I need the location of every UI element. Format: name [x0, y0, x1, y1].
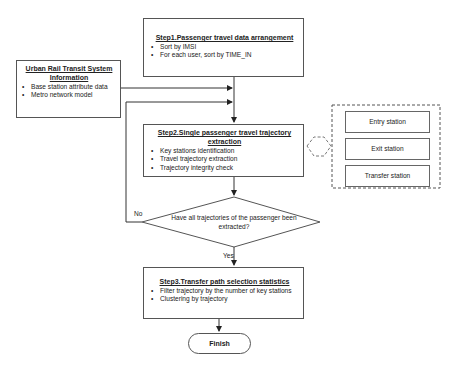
list-item: Trajectory integrity check [160, 164, 299, 172]
exit-station-box: Exit station [345, 138, 430, 160]
step1-box: Step1.Passenger travel data arrangement … [143, 18, 304, 77]
info-title: Urban Rail Transit System Information [21, 64, 117, 82]
list-item: For each user, sort by TIME_IN [160, 51, 299, 59]
step3-title: Step3.Transfer path selection statistics [150, 277, 299, 286]
step1-list: Sort by IMSI For each user, sort by TIME… [150, 43, 299, 60]
list-item: Sort by IMSI [160, 43, 299, 51]
entry-station-box: Entry station [345, 111, 430, 133]
transfer-station-label: Transfer station [365, 172, 411, 179]
finish-terminal: Finish [188, 333, 251, 354]
list-item: Travel trajectory extraction [160, 155, 299, 163]
step1-title: Step1.Passenger travel data arrangement [150, 33, 299, 42]
double-arrow-icon [307, 137, 331, 156]
step2-list: Key stations identification Travel traje… [150, 147, 299, 172]
list-item: Metro network model [31, 91, 117, 99]
transfer-station-box: Transfer station [345, 165, 430, 187]
info-box: Urban Rail Transit System Information Ba… [16, 60, 121, 118]
list-item: Base station attribute data [31, 83, 117, 91]
entry-station-label: Entry station [369, 118, 406, 125]
list-item: Clustering by trajectory [160, 295, 299, 303]
step3-list: Filter trajectory by the number of key s… [150, 287, 299, 304]
step2-title: Step2.Single passenger travel trajectory… [150, 128, 299, 146]
info-list: Base station attribute data Metro networ… [21, 83, 117, 100]
list-item: Filter trajectory by the number of key s… [160, 287, 299, 295]
no-label: No [134, 210, 142, 217]
step2-box: Step2.Single passenger travel trajectory… [143, 124, 304, 177]
exit-station-label: Exit station [371, 145, 403, 152]
list-item: Key stations identification [160, 147, 299, 155]
yes-label: Yes [223, 252, 234, 259]
step3-box: Step3.Transfer path selection statistics… [143, 267, 304, 319]
decision-text: Have all trajectories of the passenger b… [168, 213, 300, 231]
finish-label: Finish [209, 340, 230, 347]
